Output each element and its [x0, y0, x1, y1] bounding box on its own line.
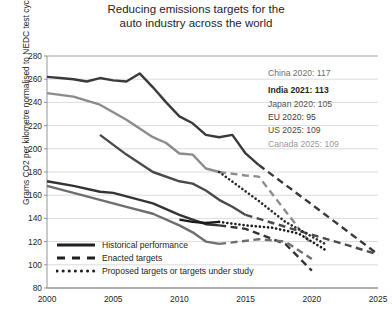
- x-tick-label: 2020: [302, 294, 321, 304]
- annotation-india: India 2021: 113: [268, 85, 329, 97]
- series-line: [47, 186, 219, 244]
- series-line: [246, 215, 378, 254]
- annotation-china: China 2020: 117: [268, 68, 330, 80]
- legend-swatch-solid: [56, 240, 96, 250]
- legend-item-historical: Historical performance: [56, 238, 253, 251]
- y-tick-label: 160: [28, 190, 42, 200]
- chart-legend: Historical performanceEnacted targetsPro…: [56, 238, 253, 277]
- x-tick-label: 2000: [38, 294, 57, 304]
- series-line: [47, 73, 259, 165]
- x-tick-label: 2005: [104, 294, 123, 304]
- legend-swatch-dotted: [56, 266, 96, 276]
- annotation-japan: Japan 2020: 105: [268, 99, 332, 111]
- legend-label: Historical performance: [102, 240, 188, 250]
- y-tick-label: 260: [28, 74, 42, 84]
- legend-label: Proposed targets or targets under study: [102, 266, 253, 276]
- chart-root: Reducing emissions targets for the auto …: [0, 0, 392, 309]
- y-tick-label: 180: [28, 167, 42, 177]
- legend-swatch-dashed: [56, 253, 96, 263]
- y-tick-label: 220: [28, 121, 42, 131]
- annotation-eu: EU 2020: 95: [268, 112, 316, 124]
- y-tick-label: 140: [28, 213, 42, 223]
- annotation-us: US 2025: 109: [268, 125, 321, 137]
- annotation-canada: Canada 2025: 109: [268, 139, 339, 151]
- legend-item-enacted: Enacted targets: [56, 251, 253, 264]
- y-tick-label: 100: [28, 260, 42, 270]
- x-tick-label: 2025: [369, 294, 388, 304]
- x-tick-label: 2010: [170, 294, 189, 304]
- y-tick-label: 200: [28, 144, 42, 154]
- legend-item-proposed: Proposed targets or targets under study: [56, 264, 253, 277]
- y-tick-label: 120: [28, 237, 42, 247]
- legend-label: Enacted targets: [102, 253, 162, 263]
- x-tick-label: 2015: [236, 294, 255, 304]
- series-line: [179, 220, 219, 223]
- y-tick-label: 240: [28, 97, 42, 107]
- y-tick-label: 280: [28, 51, 42, 61]
- y-tick-label: 80: [33, 283, 43, 293]
